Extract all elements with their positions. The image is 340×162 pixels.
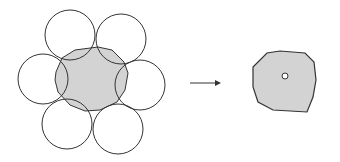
transform-arrow bbox=[190, 80, 221, 86]
center-point-marker bbox=[282, 73, 288, 79]
shaded-intersection-region bbox=[55, 47, 128, 111]
circle-top-right bbox=[96, 14, 146, 64]
circle-bottom-left bbox=[42, 99, 92, 149]
geometry-diagram bbox=[0, 0, 340, 162]
result-polygon bbox=[253, 51, 316, 112]
right-figure bbox=[253, 51, 316, 112]
circle-bottom-right bbox=[93, 104, 143, 154]
arrow-head-icon bbox=[215, 80, 221, 86]
left-figure bbox=[18, 10, 165, 154]
